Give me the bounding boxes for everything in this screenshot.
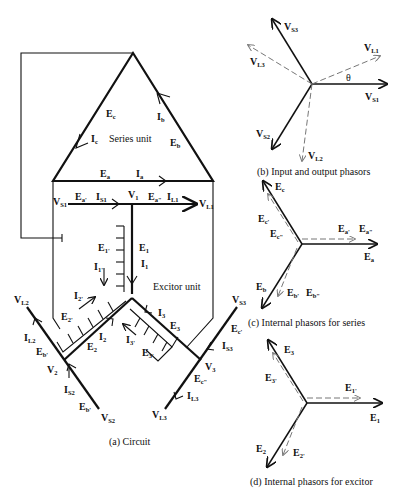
label-ea-dprime: Ea" <box>359 223 373 235</box>
label-e2p: E2' <box>61 311 73 323</box>
label-e3: E3 <box>284 344 295 356</box>
label-is1: IS1 <box>96 191 107 203</box>
label-vs3: VS3 <box>232 294 247 306</box>
label-ea-prime: Ea' <box>338 223 350 235</box>
diagram-canvas: Ec Ib Ic Series unit Eb Ea Ia VS1 Ea' IS… <box>0 0 405 504</box>
label-ea: Ea <box>364 251 375 263</box>
label-ec2: Ec" <box>194 373 207 385</box>
label-eb: Eb <box>170 137 181 149</box>
label-vs2: VS2 <box>256 128 270 140</box>
caption-series-phasors: (c) Internal phasors for series <box>248 317 365 329</box>
label-il3: IL3 <box>187 390 199 402</box>
label-e1: E1 <box>370 412 380 424</box>
phasor-vs2 <box>272 84 312 149</box>
circuit-labels: Ec Ib Ic Series unit Eb Ea Ia VS1 Ea' IS… <box>14 108 247 424</box>
label-vs1: VS1 <box>365 91 379 103</box>
label-e3-prime: E3' <box>265 372 277 384</box>
exciter-unit-label: Excitor unit <box>153 281 201 292</box>
label-e1: E1 <box>139 242 149 254</box>
phasor-e3-prime <box>273 353 303 401</box>
label-i2p: I2' <box>74 290 83 302</box>
label-i3: I3 <box>158 307 166 319</box>
label-is3: IS3 <box>222 340 234 352</box>
label-ea: Ea <box>100 168 111 180</box>
label-e3: E3 <box>170 320 181 332</box>
label-ib: Ib <box>157 111 165 123</box>
label-eb1: Eb' <box>36 346 48 358</box>
label-eb2: Eb' <box>79 401 91 413</box>
e2-winding <box>64 298 132 360</box>
label-ia: Ia <box>136 168 144 180</box>
label-ec-dprime: Ec" <box>270 228 283 240</box>
series-unit-label: Series unit <box>109 133 152 144</box>
label-v2: V2 <box>47 364 57 376</box>
label-theta: θ <box>346 72 351 83</box>
phase2-line <box>27 307 99 409</box>
label-vl2: VL2 <box>14 294 29 306</box>
label-il2: IL2 <box>24 332 36 344</box>
phasors-io: VS3 VL1 VL3 θ VS1 VS2 VL2 (b) Input and … <box>248 19 387 178</box>
label-v1: V1 <box>128 189 138 201</box>
label-vl1: VL1 <box>199 198 214 210</box>
label-il1: IL1 <box>167 191 179 203</box>
caption-io-phasors: (b) Input and output phasors <box>257 166 370 178</box>
label-vs2: VS2 <box>101 412 115 424</box>
label-vl1: VL1 <box>364 42 379 54</box>
label-ea1: Ea' <box>75 191 87 203</box>
circuit: Ec Ib Ic Series unit Eb Ea Ia VS1 Ea' IS… <box>14 53 247 448</box>
label-e2: E2 <box>256 443 266 455</box>
label-v3: V3 <box>205 361 216 373</box>
label-i2: I2 <box>99 331 106 343</box>
label-ec-prime: Ec' <box>258 213 270 225</box>
label-i1: I1 <box>141 258 148 270</box>
label-e2: E2 <box>87 341 97 353</box>
caption-exciter-phasors: (d) Internal phasors for excitor <box>250 476 373 488</box>
label-is2: IS2 <box>64 384 75 396</box>
label-ea2: Ea" <box>148 191 162 203</box>
label-ec1: Ec' <box>231 323 243 335</box>
label-vl3: VL3 <box>250 56 266 68</box>
label-ec: Ec <box>275 181 285 193</box>
label-e1-prime: E1' <box>345 382 357 394</box>
label-vl3: VL3 <box>152 409 168 421</box>
label-e3p: E3' <box>142 347 154 359</box>
phasors-exciter: E3 E3' E1' E1 E2 E2' (d) Internal phasor… <box>250 340 382 488</box>
label-ec: Ec <box>106 108 116 120</box>
label-i1p: I1' <box>94 261 103 273</box>
label-eb: Eb <box>256 281 267 293</box>
label-e2-prime: E2' <box>293 447 305 459</box>
label-vl2: VL2 <box>308 150 323 162</box>
label-vs1: VS1 <box>53 196 67 208</box>
label-vs3: VS3 <box>284 21 299 33</box>
label-e1p: E1' <box>98 242 110 254</box>
label-eb-prime: Eb' <box>287 287 299 299</box>
label-eb-dprime: Eb" <box>306 287 320 299</box>
label-ic: Ic <box>91 133 98 145</box>
caption-circuit: (a) Circuit <box>109 436 151 448</box>
e3p-teeth <box>135 318 167 351</box>
label-i3p: I3' <box>126 334 135 346</box>
phasors-series: Ec Ec' Ec" Ea' Ea" Ea Eb Eb' Eb" (c) Int… <box>248 181 377 329</box>
e1p-teeth <box>116 238 124 286</box>
series-unit-triangle <box>53 53 213 181</box>
